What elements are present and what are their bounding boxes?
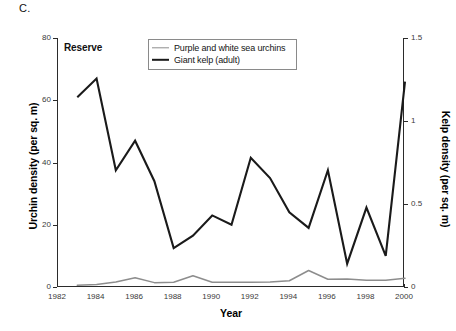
plot-area: [57, 38, 404, 287]
legend-label-urchins: Purple and white sea urchins: [174, 44, 285, 53]
x-tick-label: 2000: [384, 293, 424, 301]
x-tick-label: 1988: [153, 293, 193, 301]
y-left-tick-mark: [53, 287, 57, 288]
y-left-tick-label: 60: [23, 96, 51, 104]
y-axis-right-title: Kelp density (per sq. m): [440, 69, 452, 269]
legend: Purple and white sea urchins Giant kelp …: [148, 39, 297, 70]
x-tick-label: 1982: [37, 293, 77, 301]
x-tick-label: 1984: [76, 293, 116, 301]
series-line-purple-and-white-sea-urchins: [77, 271, 405, 286]
legend-label-kelp: Giant kelp (adult): [174, 56, 240, 65]
reserve-annotation-label: Reserve: [64, 42, 102, 53]
panel-letter: C.: [19, 3, 30, 14]
y-left-tick-label: 80: [23, 34, 51, 42]
x-tick-label: 1998: [345, 293, 385, 301]
y-left-tick-label: 0: [23, 283, 51, 291]
x-tick-label: 1996: [307, 293, 347, 301]
y-left-tick-label: 40: [23, 159, 51, 167]
series-line-giant-kelp-adult: [77, 78, 405, 263]
y-right-tick-label: 1: [411, 117, 439, 125]
x-axis-title: Year: [57, 307, 405, 319]
figure-root: C. Urchin density (per sq. m) Kelp densi…: [0, 0, 456, 331]
y-right-tick-label: 0.5: [411, 200, 439, 208]
legend-item-kelp: Giant kelp (adult): [152, 54, 293, 66]
x-tick-label: 1994: [268, 293, 308, 301]
x-tick-label: 1992: [230, 293, 270, 301]
y-right-tick-mark: [404, 287, 408, 288]
legend-item-urchins: Purple and white sea urchins: [152, 42, 293, 54]
legend-swatch-urchin-icon: [152, 44, 169, 52]
y-right-tick-label: 1.5: [411, 34, 439, 42]
y-right-tick-label: 0: [411, 283, 439, 291]
chart-plot-svg: [58, 38, 405, 287]
legend-swatch-kelp-icon: [152, 56, 169, 64]
x-tick-label: 1986: [114, 293, 154, 301]
x-tick-label: 1990: [191, 293, 231, 301]
y-left-tick-label: 20: [23, 221, 51, 229]
